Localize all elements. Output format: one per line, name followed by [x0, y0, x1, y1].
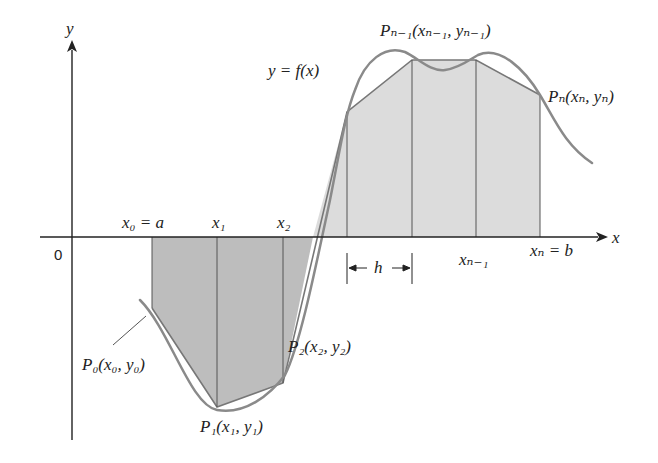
trapezoid-rule-diagram: y x 0 y = f(x) x₀ = a x₁ x₂ xₙ₋₁ xₙ = b …	[0, 0, 658, 463]
label-p1: P₁(x₁, y₁)	[199, 417, 263, 436]
origin-label: 0	[54, 246, 62, 263]
label-pn-minus-1: Pₙ₋₁(xₙ₋₁, yₙ₋₁)	[379, 21, 491, 40]
x-axis-label: x	[611, 228, 620, 247]
y-axis-label: y	[64, 19, 74, 38]
p0-leader-line	[113, 316, 146, 345]
label-x1: x₁	[211, 213, 225, 232]
label-xn-minus-1: xₙ₋₁	[458, 250, 488, 269]
label-pn: Pₙ(xₙ, yₙ)	[547, 87, 614, 106]
label-x0: x₀ = a	[121, 213, 164, 232]
label-x2: x₂	[276, 213, 291, 232]
trapezoids-negative	[152, 237, 313, 407]
label-xn: xₙ = b	[529, 241, 573, 260]
label-p2: P₂(x₂, y₂)	[287, 337, 351, 356]
label-h: h	[374, 258, 383, 277]
curve-label: y = f(x)	[266, 61, 319, 80]
label-p0: P₀(x₀, y₀)	[81, 355, 145, 374]
